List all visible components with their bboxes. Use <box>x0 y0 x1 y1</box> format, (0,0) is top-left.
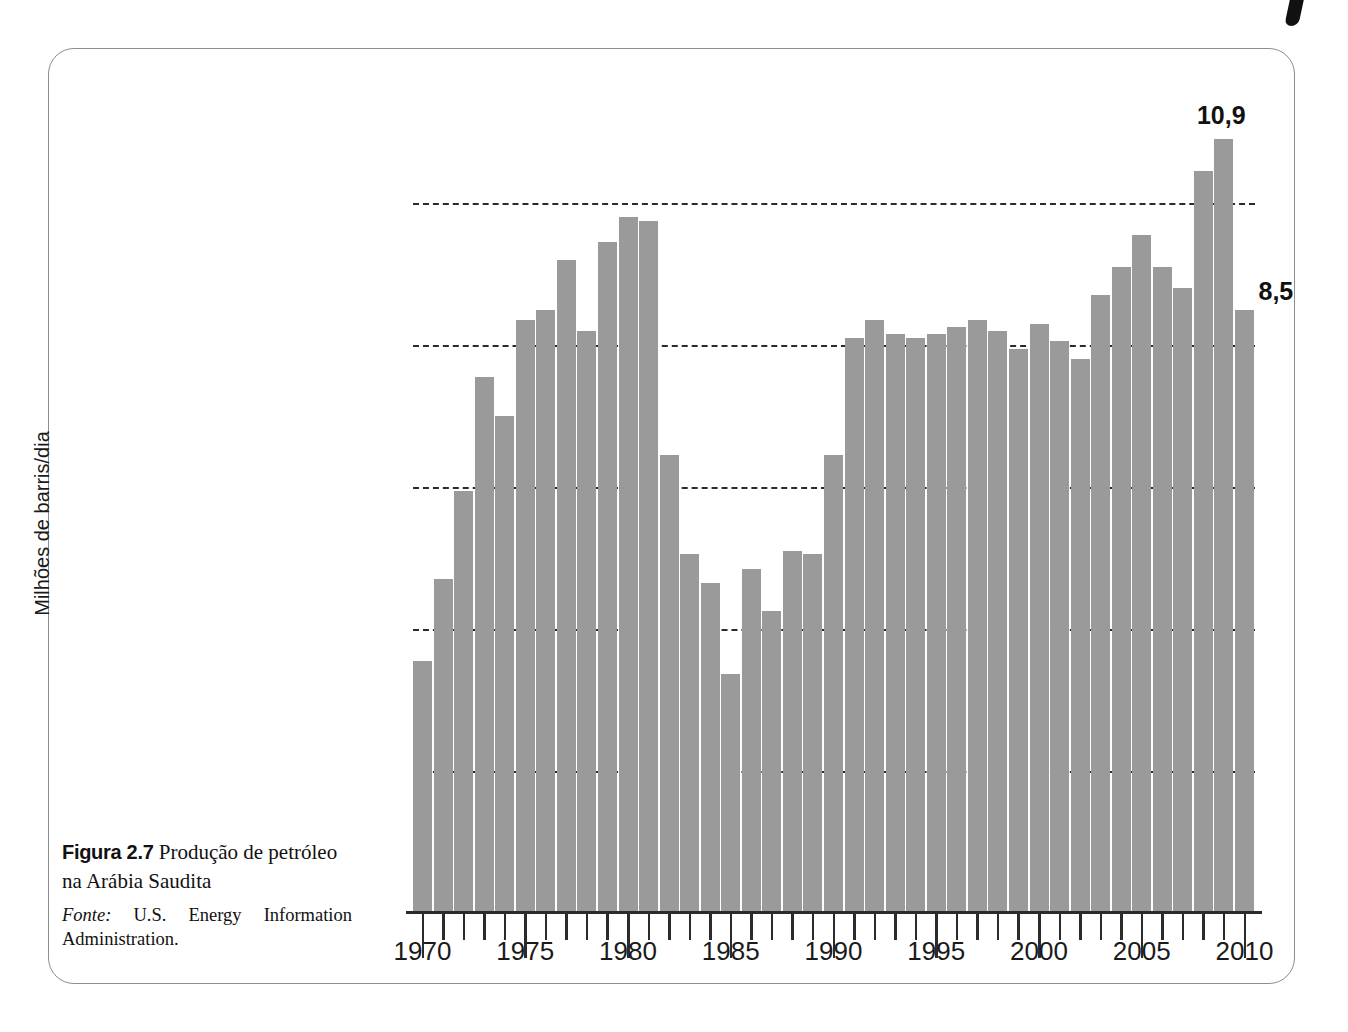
figure-source: Fonte: U.S. Energy Information Administr… <box>62 903 352 951</box>
page-corner-mark <box>1284 0 1304 26</box>
figure-caption: Figura 2.7 Produção de petróleo na Arábi… <box>62 838 362 951</box>
caption-title: Figura 2.7 Produção de petróleo na Arábi… <box>62 838 362 896</box>
figure-number: Figura 2.7 <box>62 841 153 863</box>
source-label: Fonte: <box>62 905 111 925</box>
